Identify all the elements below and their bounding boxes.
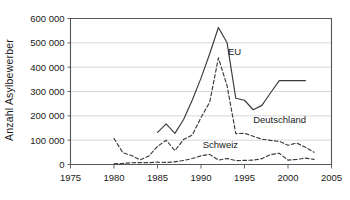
x-tick-label: 1995 (234, 172, 255, 183)
x-tick-label: 1980 (103, 172, 124, 183)
x-tick-label: 2000 (277, 172, 298, 183)
x-tick-label: 2005 (321, 172, 342, 183)
plot-area: 0100 000200 000300 000400 000500 000600 … (0, 0, 350, 200)
y-tick-label: 600 000 (30, 13, 64, 24)
grid-lines (71, 43, 332, 140)
y-tick-label: 500 000 (30, 37, 64, 48)
x-axis-ticks: 1975198019851990199520002005 (60, 165, 342, 183)
asylum-applicants-line-chart: Anzahl Asylbewerber 0100 000200 000300 0… (0, 0, 350, 200)
y-tick-label: 300 000 (30, 86, 64, 97)
y-axis-ticks: 0100 000200 000300 000400 000500 000600 … (30, 13, 70, 170)
y-tick-label: 400 000 (30, 62, 64, 73)
series-label-schweiz: Schweiz (203, 139, 239, 150)
series-annotations: EUDeutschlandSchweiz (203, 46, 306, 150)
y-tick-label: 100 000 (30, 135, 64, 146)
x-tick-label: 1975 (60, 172, 81, 183)
x-tick-label: 1985 (147, 172, 168, 183)
y-tick-label: 0 (59, 159, 64, 170)
y-tick-label: 200 000 (30, 110, 64, 121)
series-label-eu: EU (228, 46, 241, 57)
x-tick-label: 1990 (190, 172, 211, 183)
series-label-deutschland: Deutschland (253, 114, 306, 125)
